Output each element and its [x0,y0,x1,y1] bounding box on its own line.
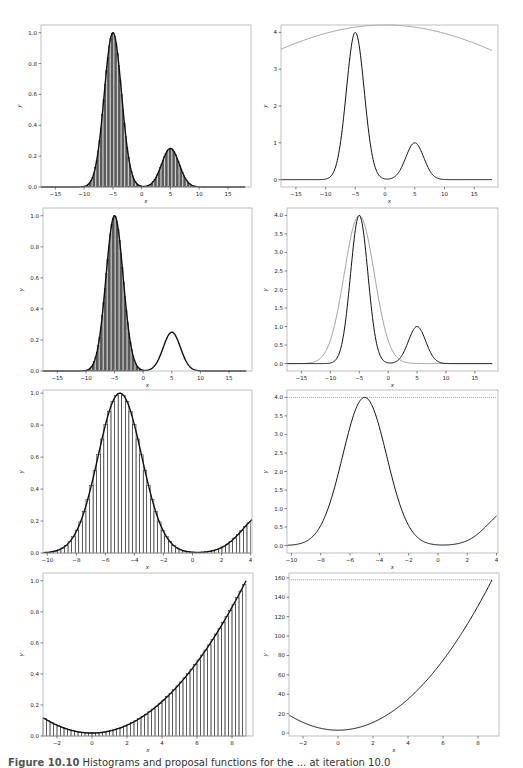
figure-caption: Figure 10.10 Histograms and proposal fun… [8,757,390,768]
caption-text: Histograms and proposal functions for th… [83,757,391,768]
svg-text:140: 140 [275,594,286,600]
x-axis-label: x [391,747,396,753]
svg-text:120: 120 [275,614,286,620]
chart-r4-right: −202468020406080100120140160xy [0,0,523,768]
y-axis-label: y [262,652,269,657]
svg-text:100: 100 [275,633,286,639]
caption-label: Figure 10.10 [8,757,79,768]
svg-text:6: 6 [441,740,445,746]
target-curve [289,580,492,730]
svg-text:60: 60 [278,672,285,678]
svg-text:4: 4 [406,740,410,746]
svg-text:2: 2 [371,740,375,746]
svg-text:20: 20 [278,711,285,717]
svg-text:8: 8 [476,740,480,746]
svg-text:160: 160 [275,575,286,581]
axes-frame [289,573,499,736]
svg-text:−2: −2 [299,740,307,746]
svg-text:80: 80 [278,652,285,658]
svg-text:0: 0 [336,740,340,746]
svg-text:0: 0 [282,730,286,736]
svg-text:40: 40 [278,691,285,697]
plot-r4-right: −202468020406080100120140160xy [262,573,499,753]
